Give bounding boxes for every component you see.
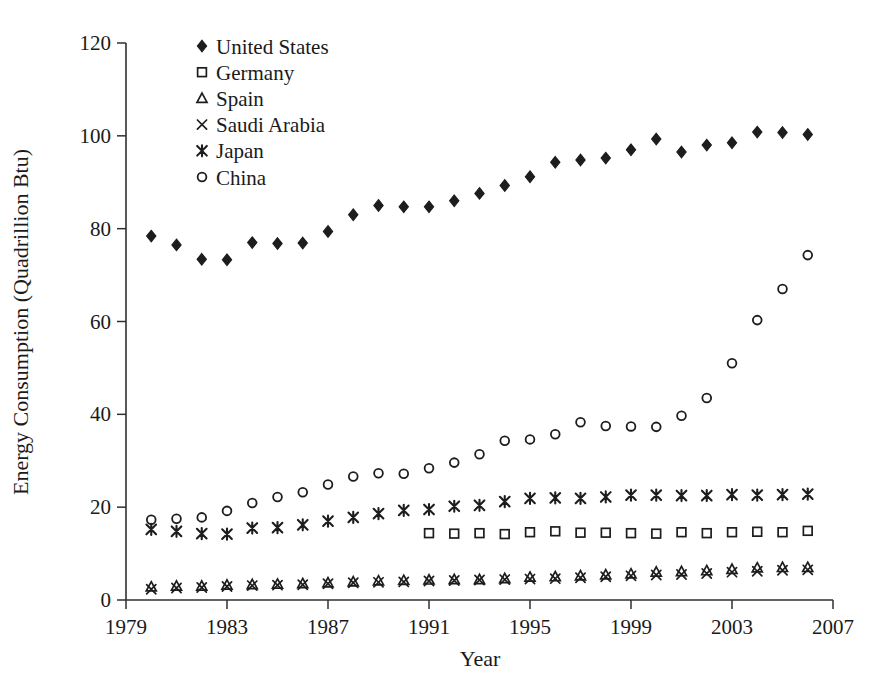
data-point [550, 492, 560, 503]
data-point [248, 499, 257, 508]
open-square-icon [198, 68, 207, 77]
data-point [702, 139, 711, 151]
data-point [526, 528, 535, 537]
data-point [450, 195, 459, 207]
series-germany [425, 526, 812, 538]
data-point [576, 154, 585, 166]
data-point [273, 493, 282, 502]
data-point [601, 152, 610, 164]
data-point [197, 528, 207, 539]
y-tick-label: 0 [101, 588, 112, 612]
data-point [702, 490, 712, 501]
data-point [222, 529, 232, 540]
data-point [222, 254, 231, 266]
data-point [752, 490, 762, 501]
data-markers-group [146, 126, 813, 594]
data-point [298, 237, 307, 249]
data-point [753, 316, 762, 325]
data-point [601, 422, 610, 431]
data-point [652, 570, 661, 579]
legend-item-spain[interactable]: Spain [197, 87, 264, 111]
x-tick-label: 2003 [711, 615, 753, 639]
data-point [273, 522, 283, 533]
x-axis-title: Year [460, 646, 501, 671]
x-tick-label: 1987 [307, 615, 349, 639]
data-point [424, 575, 434, 584]
data-point [248, 237, 257, 249]
data-point [247, 579, 257, 588]
data-point [298, 488, 307, 497]
legend-label: United States [216, 35, 329, 59]
data-point [247, 522, 257, 533]
data-point [727, 568, 736, 577]
tick-labels-group: 0204060801001201979198319871991199519992… [80, 31, 855, 639]
open-circle-icon [198, 173, 207, 182]
data-point [323, 578, 333, 587]
data-point [500, 573, 510, 582]
data-point [500, 496, 510, 507]
data-point [425, 529, 434, 538]
data-point [727, 137, 736, 149]
data-point [728, 528, 737, 537]
data-point [449, 501, 459, 512]
data-point [197, 254, 206, 266]
legend-label: Germany [216, 61, 295, 85]
data-point [450, 458, 459, 467]
data-point [399, 201, 408, 213]
filled-diamond-icon [197, 40, 206, 52]
data-point [601, 491, 611, 502]
data-point [172, 239, 181, 251]
data-point [626, 490, 636, 501]
data-point [147, 230, 156, 242]
data-point [728, 359, 737, 368]
plot-canvas: 0204060801001201979198319871991199519992… [0, 0, 893, 685]
data-point [272, 579, 282, 588]
y-axis-title: Energy Consumption (Quadrillion Btu) [8, 149, 33, 495]
data-point [475, 188, 484, 200]
data-point [702, 569, 711, 578]
data-point [324, 480, 333, 489]
data-point [146, 524, 156, 535]
data-point [677, 411, 686, 420]
cross-x-icon [197, 120, 206, 129]
data-point [753, 126, 762, 137]
data-point [349, 209, 358, 221]
data-point [601, 528, 610, 537]
data-point [424, 201, 433, 213]
data-point [551, 157, 560, 169]
legend-item-germany[interactable]: Germany [198, 61, 295, 85]
legend-item-saudi-arabia[interactable]: Saudi Arabia [197, 113, 325, 137]
data-point [172, 526, 182, 537]
asterisk-icon [197, 145, 207, 156]
data-point [298, 578, 308, 587]
legend-item-japan[interactable]: Japan [197, 139, 264, 163]
data-point [525, 171, 534, 183]
y-tick-label: 80 [90, 217, 111, 241]
legend: United StatesGermanySpainSaudi ArabiaJap… [197, 35, 329, 190]
legend-item-united-states[interactable]: United States [197, 35, 328, 59]
data-point [778, 489, 788, 500]
data-point [778, 566, 787, 575]
x-tick-label: 1999 [610, 615, 652, 639]
data-point [374, 200, 383, 212]
data-point [778, 528, 787, 537]
data-point [627, 529, 636, 538]
data-point [576, 493, 586, 504]
data-point [652, 133, 661, 145]
x-tick-label: 1979 [105, 615, 147, 639]
legend-item-china[interactable]: China [198, 166, 267, 190]
y-tick-label: 20 [90, 495, 111, 519]
legend-label: China [216, 166, 267, 190]
data-point [374, 469, 383, 478]
data-point [348, 512, 358, 523]
x-tick-label: 1983 [206, 615, 248, 639]
data-point [576, 528, 585, 537]
data-point [803, 489, 813, 500]
data-point [652, 422, 661, 431]
y-tick-label: 60 [90, 310, 111, 334]
data-point [677, 490, 687, 501]
y-tick-label: 100 [80, 124, 112, 148]
data-point [500, 530, 509, 539]
data-point [551, 430, 560, 439]
data-point [677, 528, 686, 537]
